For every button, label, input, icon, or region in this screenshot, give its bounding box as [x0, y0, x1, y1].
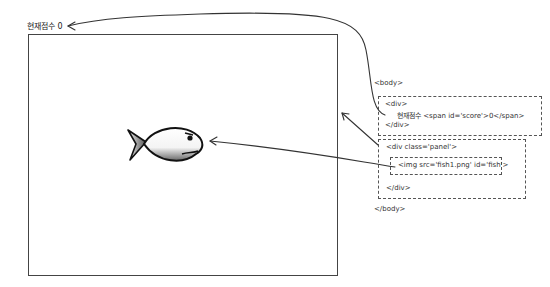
mapping-arrows: [0, 0, 550, 287]
panel-arrow: [342, 113, 378, 145]
fish-arrow: [210, 141, 395, 167]
score-arrow: [68, 13, 385, 115]
